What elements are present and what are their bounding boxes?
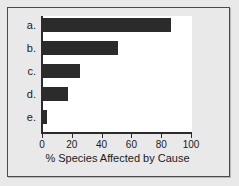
category-label-b: b.	[14, 41, 36, 55]
x-tick-mark	[161, 134, 162, 138]
x-tick-mark	[42, 134, 43, 138]
category-label-a: a.	[14, 18, 36, 32]
x-tick-label: 20	[57, 139, 87, 150]
x-axis-title: % Species Affected by Cause	[20, 152, 215, 164]
chart-screenshot: a. b. c. d. e. 020406080100 % Species Af…	[0, 0, 239, 186]
x-tick-label: 0	[27, 139, 57, 150]
horizontal-bar-chart: a. b. c. d. e. 020406080100 % Species Af…	[0, 0, 239, 186]
bar-a	[43, 18, 171, 32]
x-tick-mark	[72, 134, 73, 138]
bar-d	[43, 87, 68, 101]
x-tick-mark	[102, 134, 103, 138]
plot-area	[41, 16, 192, 134]
x-tick-label: 40	[87, 139, 117, 150]
category-label-c: c.	[14, 64, 36, 78]
x-tick-label: 100	[176, 139, 206, 150]
x-tick-label: 80	[146, 139, 176, 150]
bar-e	[43, 110, 47, 124]
x-tick-label: 60	[116, 139, 146, 150]
x-axis: 020406080100	[41, 134, 192, 154]
category-label-d: d.	[14, 87, 36, 101]
bar-b	[43, 41, 118, 55]
x-tick-mark	[191, 134, 192, 138]
category-label-e: e.	[14, 110, 36, 124]
x-tick-mark	[131, 134, 132, 138]
bar-c	[43, 64, 80, 78]
